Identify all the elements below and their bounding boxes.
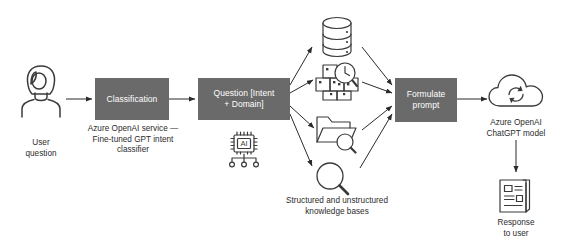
response-caption-line2: to user: [478, 229, 554, 240]
document-response-icon: [496, 176, 538, 216]
classification-caption-line3: classifier: [75, 145, 191, 156]
arrow-question-to-structured-data-search: [290, 80, 313, 93]
user-caption-line2: question: [6, 149, 76, 160]
classification-caption-line2: Fine-tuned GPT intent: [75, 135, 191, 146]
model-caption-line2: ChatGPT model: [472, 129, 560, 140]
arrow-question-to-general-search: [290, 114, 312, 166]
classification-label: Classification: [107, 94, 158, 105]
knowledge-bases-caption: Structured and unstructured knowledge ba…: [262, 196, 412, 217]
ai-chip-label: AI: [240, 139, 247, 148]
classification-caption-line1: Azure OpenAI service —: [75, 124, 191, 135]
classification-box[interactable]: Classification: [95, 78, 169, 120]
response-caption-line1: Response: [478, 218, 554, 229]
user-caption-line1: User: [6, 138, 76, 149]
ai-chip-icon: AI: [225, 131, 263, 171]
database-cylinder-icon: [315, 14, 359, 62]
formulate-prompt-box[interactable]: Formulate prompt: [395, 78, 457, 122]
question-box[interactable]: Question [Intent + Domain]: [198, 78, 290, 120]
arrow-question-to-database: [290, 47, 312, 85]
formulate-label-line2: prompt: [413, 100, 440, 111]
question-label-line2: + Domain]: [224, 99, 263, 110]
cloud-sync-icon: [487, 72, 545, 112]
formulate-label-line1: Formulate: [407, 89, 446, 100]
user-question-caption: User question: [6, 138, 76, 159]
user-avatar-icon: [16, 62, 66, 118]
arrow-document-search-to-formulate: [362, 106, 392, 130]
arrow-general-search-to-formulate: [360, 114, 392, 168]
model-caption-line1: Azure OpenAI: [472, 118, 560, 129]
arrow-question-to-document-search: [290, 106, 314, 128]
classification-caption: Azure OpenAI service — Fine-tuned GPT in…: [75, 124, 191, 156]
diagram-canvas: User question Classification Azure OpenA…: [0, 0, 570, 245]
arrow-database-to-formulate: [362, 47, 392, 85]
response-caption: Response to user: [478, 218, 554, 239]
arrow-structured-data-search-to-formulate: [362, 82, 392, 93]
knowledge-bases-caption-line1: Structured and unstructured: [262, 196, 412, 207]
boxes-magnifier-icon: [313, 60, 363, 104]
knowledge-bases-caption-line2: knowledge bases: [262, 207, 412, 218]
model-caption: Azure OpenAI ChatGPT model: [472, 118, 560, 139]
question-label-line1: Question [Intent: [214, 88, 275, 99]
folder-magnifier-icon: [314, 112, 362, 154]
